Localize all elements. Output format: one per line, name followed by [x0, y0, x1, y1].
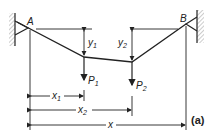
- figure-tag: (a): [191, 114, 205, 126]
- y1-label: y1: [87, 37, 97, 49]
- x1-label: x1: [51, 90, 61, 102]
- left-wall-support: [9, 13, 28, 46]
- x2-label: x2: [77, 104, 87, 116]
- p2-label: P2: [136, 80, 147, 92]
- cable-diagram: A B y1 y2 P1 P2 x1 x2 x (a): [0, 0, 217, 138]
- x-label: x: [107, 119, 114, 130]
- support-b-label: B: [180, 13, 187, 24]
- y2-label: y2: [117, 37, 127, 49]
- cable-line: [17, 22, 186, 62]
- right-wall-support: [186, 10, 204, 43]
- p1-label: P1: [88, 75, 99, 87]
- support-a-label: A: [26, 16, 34, 27]
